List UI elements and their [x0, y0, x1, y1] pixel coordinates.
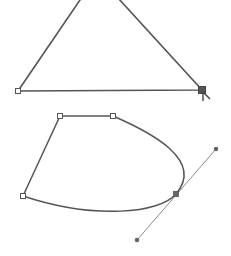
- drawing-canvas[interactable]: [0, 0, 231, 256]
- curve-shape[interactable]: [21, 114, 219, 243]
- bezier-handle-out[interactable]: [214, 147, 219, 152]
- anchor-point-top-left[interactable]: [58, 114, 63, 119]
- direct-selection-arrow-icon: [203, 92, 210, 101]
- anchor-point-bottom-right-selected[interactable]: [199, 87, 206, 94]
- triangle-outline[interactable]: [18, 0, 202, 91]
- anchor-point-left[interactable]: [21, 194, 26, 199]
- bezier-handle-in[interactable]: [135, 238, 140, 243]
- anchor-point-top-right[interactable]: [111, 114, 116, 119]
- anchor-point-bottom-left[interactable]: [16, 89, 21, 94]
- curve-outline[interactable]: [23, 116, 184, 211]
- triangle-shape[interactable]: [16, 0, 206, 94]
- anchor-point-smooth-selected[interactable]: [174, 192, 179, 197]
